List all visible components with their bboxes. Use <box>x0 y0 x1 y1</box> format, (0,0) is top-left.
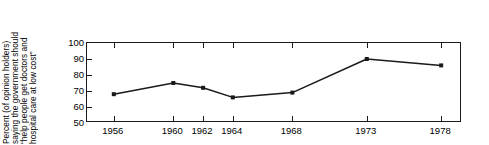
x-axis-tick-mark-top <box>367 43 368 48</box>
y-axis-tick-mark <box>87 59 92 60</box>
data-point-marker <box>201 86 205 90</box>
data-point-marker <box>171 81 175 85</box>
y-axis-tick-label: 80 <box>58 69 84 80</box>
data-point-marker <box>290 91 294 95</box>
x-axis-tick-mark-bottom <box>292 116 293 121</box>
x-axis-tick-mark-bottom <box>441 116 442 121</box>
data-point-marker <box>439 63 443 67</box>
data-point-marker <box>365 57 369 61</box>
chart-figure: Percent (of opinion holders) saying the … <box>0 0 489 145</box>
x-axis-tick-label: 1956 <box>102 125 123 136</box>
x-axis-tick-mark-top <box>292 43 293 48</box>
x-axis-tick-label: 1978 <box>430 125 451 136</box>
x-axis-tick-label: 1968 <box>281 125 302 136</box>
y-axis-tick-mark <box>87 75 92 76</box>
data-series-line <box>87 43 462 123</box>
y-axis-tick-label: 60 <box>58 101 84 112</box>
x-axis-tick-mark-bottom <box>233 116 234 121</box>
x-axis-tick-label: 1962 <box>191 125 212 136</box>
plot-area <box>86 42 461 122</box>
x-axis-tick-label: 1973 <box>355 125 376 136</box>
y-axis-tick-label: 90 <box>58 53 84 64</box>
x-axis-tick-labels: 1956196019621964196819731978 <box>86 125 461 141</box>
data-point-marker <box>112 92 116 96</box>
x-axis-tick-mark-top <box>233 43 234 48</box>
y-axis-tick-labels: 5060708090100 <box>56 42 84 122</box>
x-axis-tick-mark-top <box>173 43 174 48</box>
x-axis-tick-mark-bottom <box>173 116 174 121</box>
x-axis-tick-label: 1964 <box>221 125 242 136</box>
x-axis-tick-mark-top <box>114 43 115 48</box>
y-axis-tick-label: 50 <box>58 117 84 128</box>
y-axis-title-line-4: hospital care at low cost” <box>29 51 38 144</box>
x-axis-tick-mark-top <box>441 43 442 48</box>
series-line <box>114 59 441 97</box>
y-axis-tick-mark <box>87 91 92 92</box>
x-axis-tick-mark-bottom <box>367 116 368 121</box>
data-point-marker <box>231 95 235 99</box>
x-axis-tick-mark-top <box>203 43 204 48</box>
y-axis-tick-label: 70 <box>58 85 84 96</box>
y-axis-tick-mark <box>87 107 92 108</box>
x-axis-tick-mark-bottom <box>203 116 204 121</box>
x-axis-tick-mark-bottom <box>114 116 115 121</box>
y-axis-title: Percent (of opinion holders) saying the … <box>0 0 52 145</box>
y-axis-tick-label: 100 <box>58 37 84 48</box>
x-axis-tick-label: 1960 <box>162 125 183 136</box>
